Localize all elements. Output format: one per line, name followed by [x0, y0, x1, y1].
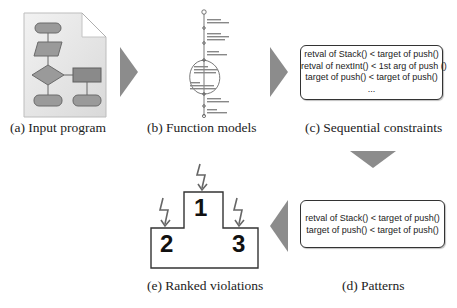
constraint-line: retval of nextInt() < 1st arg of push ()	[301, 61, 442, 73]
patterns-box: retval of Stack() < target of push() tar…	[300, 200, 445, 248]
arrow-right-icon	[120, 47, 140, 97]
flowchart-document-icon	[20, 9, 110, 121]
caption-ranked-violations: (e) Ranked violations	[147, 278, 263, 294]
sequential-constraints-box: retval of Stack() < target of push() ret…	[300, 45, 443, 100]
rank-2-label: 2	[160, 230, 173, 258]
constraint-line: target of push() < target of push()	[301, 72, 442, 84]
caption-sequential-constraints: (c) Sequential constraints	[305, 120, 442, 136]
state-machine-icon	[180, 8, 250, 120]
arrow-right-icon	[270, 47, 290, 97]
caption-function-models: (b) Function models	[147, 120, 257, 136]
constraint-ellipsis: ...	[301, 84, 442, 96]
arrow-left-icon	[270, 200, 290, 254]
pattern-line: retval of Stack() < target of push()	[301, 213, 444, 225]
constraint-line: retval of Stack() < target of push()	[301, 49, 442, 61]
caption-patterns: (d) Patterns	[342, 278, 405, 294]
caption-input-program: (a) Input program	[10, 120, 106, 136]
rank-1-label: 1	[194, 194, 207, 222]
pattern-line: target of push() < target of push()	[301, 225, 444, 237]
arrow-down-icon	[350, 151, 398, 171]
rank-3-label: 3	[232, 230, 245, 258]
